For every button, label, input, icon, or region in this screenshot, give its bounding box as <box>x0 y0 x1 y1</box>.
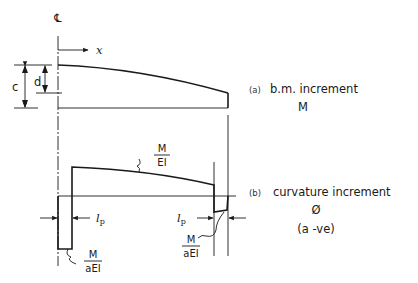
panel-b-symbol: Ø <box>311 203 320 217</box>
m-over-aei-left-annotation: M aEI <box>67 249 102 274</box>
svg-text:M: M <box>158 143 167 154</box>
diagram-canvas: ℄ x c d lp lp <box>0 0 418 283</box>
curvature-diagram <box>58 162 236 256</box>
panel-b-title: curvature increment <box>273 185 391 199</box>
leader-m-over-ei <box>137 159 140 172</box>
svg-text:aEI: aEI <box>183 248 198 259</box>
svg-text:aEI: aEI <box>85 263 100 274</box>
centerline-symbol: ℄ <box>53 11 62 25</box>
panel-a-caption: (a) b.m. increment M <box>249 82 358 114</box>
m-over-ei-annotation: M EI <box>137 143 170 172</box>
svg-text:EI: EI <box>157 157 166 168</box>
x-axis-label: x <box>96 43 103 57</box>
leader-m-over-aei-right <box>198 212 224 238</box>
leader-m-over-aei-left <box>67 249 76 264</box>
bm-curve <box>58 65 228 93</box>
diagram-svg: ℄ x c d lp lp <box>0 0 418 283</box>
panel-a-title: b.m. increment <box>270 82 358 96</box>
m-over-aei-right-annotation: M aEI <box>182 212 224 259</box>
bm-diagram <box>58 65 228 108</box>
curvature-outline <box>58 167 228 249</box>
panel-a-tag: (a) <box>249 85 261 95</box>
lp-right-label: lp <box>177 211 186 226</box>
panel-b-tag: (b) <box>249 188 261 198</box>
lp-right-dimension: lp <box>177 211 246 226</box>
panel-a-symbol: M <box>298 100 308 114</box>
svg-text:M: M <box>89 249 98 260</box>
panel-b-caption: (b) curvature increment Ø (a -ve) <box>249 185 391 236</box>
lp-left-label: lp <box>96 211 105 226</box>
svg-text:M: M <box>187 234 196 245</box>
dimension-c-label: c <box>12 80 18 94</box>
dimension-d-label: d <box>34 75 41 89</box>
panel-b-note: (a -ve) <box>297 222 334 236</box>
